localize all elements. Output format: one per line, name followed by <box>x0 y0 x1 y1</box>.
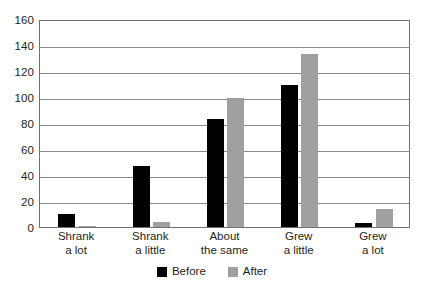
bar-chart: 160140120100806040200 Shranka lotShranka… <box>0 0 424 291</box>
legend-entry-after[interactable]: After <box>228 266 267 278</box>
bar-before-grew-a-little <box>281 85 298 227</box>
x-axis-category-label: Shranka lot <box>39 230 113 257</box>
y-axis-tick-label: 100 <box>0 93 34 105</box>
legend-swatch-icon <box>228 267 238 277</box>
legend-swatch-icon <box>157 267 167 277</box>
bar-after-shrank-a-little <box>153 222 170 227</box>
chart-legend: BeforeAfter <box>0 266 424 278</box>
bar-after-about-the-same <box>227 98 244 227</box>
legend-label: After <box>243 266 267 278</box>
y-axis-tick-label: 80 <box>0 119 34 131</box>
x-axis-category-line: Grew <box>262 230 336 244</box>
bar-after-grew-a-lot <box>376 209 393 227</box>
x-axis-category-line: a little <box>113 244 187 258</box>
legend-label: Before <box>172 266 206 278</box>
x-axis-category-labels: Shranka lotShranka littleAboutthe sameGr… <box>39 230 410 262</box>
x-axis-category-line: a lot <box>39 244 113 258</box>
bars-layer <box>40 21 409 227</box>
y-axis-tick-label: 60 <box>0 145 34 157</box>
bar-before-shrank-a-lot <box>58 214 75 227</box>
bar-after-shrank-a-lot <box>79 226 96 227</box>
bar-before-grew-a-lot <box>355 223 372 227</box>
bar-before-about-the-same <box>207 119 224 227</box>
y-axis-tick-label: 0 <box>0 223 34 235</box>
x-axis-category-line: the same <box>187 244 261 258</box>
y-axis-tick-label: 160 <box>0 15 34 27</box>
y-axis-tick-labels: 160140120100806040200 <box>0 20 34 228</box>
y-axis-tick-label: 40 <box>0 171 34 183</box>
x-axis-category-line: a lot <box>336 244 410 258</box>
x-axis-category-label: Shranka little <box>113 230 187 257</box>
x-axis-category-label: Grewa little <box>262 230 336 257</box>
y-axis-tick-label: 120 <box>0 67 34 79</box>
x-axis-category-line: Grew <box>336 230 410 244</box>
x-axis-category-line: a little <box>262 244 336 258</box>
x-axis-category-label: Grewa lot <box>336 230 410 257</box>
x-axis-category-line: Shrank <box>113 230 187 244</box>
x-axis-category-line: Shrank <box>39 230 113 244</box>
x-axis-category-line: About <box>187 230 261 244</box>
y-axis-tick-label: 20 <box>0 197 34 209</box>
x-axis-category-label: Aboutthe same <box>187 230 261 257</box>
y-axis-tick-label: 140 <box>0 41 34 53</box>
plot-area <box>39 20 410 228</box>
bar-after-grew-a-little <box>301 54 318 227</box>
bar-before-shrank-a-little <box>133 166 150 227</box>
legend-entry-before[interactable]: Before <box>157 266 206 278</box>
